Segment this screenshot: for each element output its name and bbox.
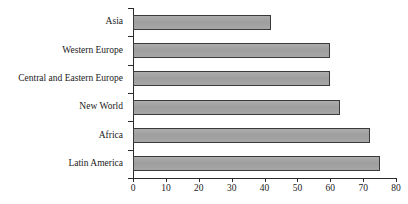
x-axis-tick xyxy=(232,178,233,182)
x-axis-tick-label: 30 xyxy=(227,183,237,194)
x-axis-tick xyxy=(297,178,298,182)
x-axis-tick-label: 50 xyxy=(293,183,303,194)
bar-chart: AsiaWestern EuropeCentral and Eastern Eu… xyxy=(0,0,408,204)
y-axis-tick xyxy=(128,36,133,37)
plot-area xyxy=(133,8,396,178)
x-axis-tick-label: 70 xyxy=(358,183,368,194)
x-axis-tick xyxy=(265,178,266,182)
y-axis-label-asia: Asia xyxy=(0,16,128,27)
y-axis-tick xyxy=(128,93,133,94)
x-axis-tick xyxy=(363,178,364,182)
y-axis-label-latin-america: Latin America xyxy=(0,158,128,169)
x-axis-tick xyxy=(199,178,200,182)
bar-row xyxy=(133,71,396,86)
bar-row xyxy=(133,43,396,58)
y-axis-tick xyxy=(128,150,133,151)
x-axis-tick-label: 20 xyxy=(194,183,204,194)
bar-row xyxy=(133,100,396,115)
bar xyxy=(133,15,271,30)
x-axis-tick-label: 40 xyxy=(260,183,270,194)
bar-row xyxy=(133,156,396,171)
x-axis-tick xyxy=(330,178,331,182)
y-axis-label-africa: Africa xyxy=(0,130,128,141)
x-axis-tick xyxy=(133,178,134,182)
x-axis-tick xyxy=(396,178,397,182)
y-axis-label-new-world: New World xyxy=(0,101,128,112)
x-axis-tick-label: 80 xyxy=(391,183,401,194)
y-axis-tick xyxy=(128,121,133,122)
y-axis-label-central-and-eastern-europe: Central and Eastern Europe xyxy=(0,73,128,84)
bar xyxy=(133,71,330,86)
y-axis-label-western-europe: Western Europe xyxy=(0,45,128,56)
x-axis-tick xyxy=(166,178,167,182)
x-axis-tick-label: 10 xyxy=(161,183,171,194)
bar xyxy=(133,100,340,115)
bar xyxy=(133,156,380,171)
x-axis-tick-label: 60 xyxy=(326,183,336,194)
bar xyxy=(133,128,370,143)
bar-row xyxy=(133,15,396,30)
bar-row xyxy=(133,128,396,143)
bar xyxy=(133,43,330,58)
y-axis-tick xyxy=(128,65,133,66)
x-axis-tick-label: 0 xyxy=(131,183,136,194)
y-axis-tick xyxy=(128,8,133,9)
